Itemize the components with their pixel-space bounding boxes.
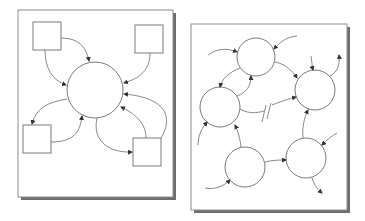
- node-right: [295, 70, 335, 110]
- centralized-panel: [18, 10, 176, 200]
- node-bottom-right: [286, 138, 326, 178]
- node-top: [237, 38, 275, 76]
- node-bottom-left: [225, 147, 265, 187]
- node-bottom-left: [23, 125, 51, 153]
- distributed-panel: [191, 24, 350, 213]
- node-top-left: [33, 22, 61, 50]
- hub-node: [67, 62, 123, 118]
- node-left: [200, 87, 240, 127]
- node-top-right: [135, 25, 163, 53]
- diagram-canvas: [0, 0, 365, 221]
- node-bottom-right: [133, 138, 161, 166]
